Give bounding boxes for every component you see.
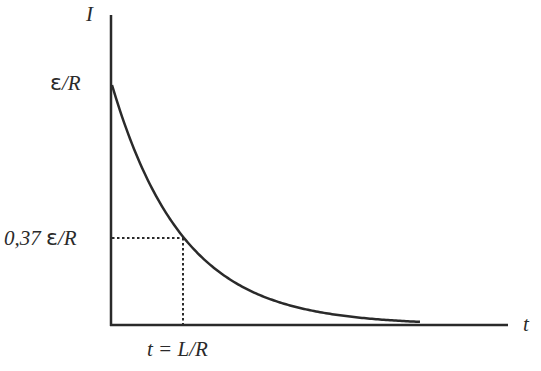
chart-canvas bbox=[0, 0, 541, 371]
y-tick-eps-over-r-rest: /R bbox=[62, 71, 81, 95]
y-tick-037-rest: /R bbox=[58, 226, 77, 250]
y-axis-label: I bbox=[86, 2, 93, 27]
epsilon-symbol: ε bbox=[50, 70, 62, 95]
x-tick-time-constant: t = L/R bbox=[147, 337, 208, 362]
x-axis-label: t bbox=[523, 312, 529, 337]
y-tick-037-number: 0,37 bbox=[4, 226, 46, 250]
epsilon-symbol: ε bbox=[46, 225, 58, 250]
decay-curve bbox=[112, 85, 420, 322]
y-tick-037-eps-over-r: 0,37 ε/R bbox=[4, 225, 77, 251]
y-tick-eps-over-r: ε/R bbox=[50, 70, 81, 96]
